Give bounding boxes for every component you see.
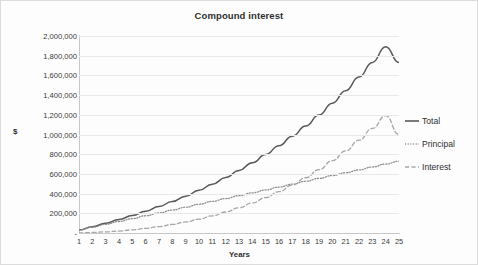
legend-swatch-icon (405, 139, 419, 149)
y-tick-label: 800,000 (3, 150, 77, 159)
chart-legend: TotalPrincipalInterest (405, 109, 478, 178)
x-tick-label: 10 (195, 237, 203, 246)
legend-swatch-icon (405, 116, 419, 126)
x-axis-tick-labels: 1234567891011121314151617181920212223242… (79, 237, 400, 251)
legend-item[interactable]: Principal (405, 132, 478, 155)
x-tick-label: 9 (184, 237, 188, 246)
gridline (79, 174, 399, 175)
gridline (79, 194, 399, 195)
series-line (79, 47, 399, 230)
x-tick-label: 21 (342, 237, 350, 246)
legend-item[interactable]: Interest (405, 155, 478, 178)
gridline (79, 213, 399, 214)
chart-container: Compound interest $ 2,000,0001,800,0001,… (0, 0, 478, 265)
y-axis-tick-labels: 2,000,0001,800,0001,600,0001,400,0001,20… (1, 1, 77, 265)
y-tick-label: 600,000 (3, 169, 77, 178)
x-tick-label: 20 (328, 237, 336, 246)
x-tick-label: 19 (315, 237, 323, 246)
x-tick-label: 4 (117, 237, 121, 246)
x-tick-label: 16 (275, 237, 283, 246)
x-tick-label: 3 (104, 237, 108, 246)
gridline (79, 115, 399, 116)
x-tick-label: 22 (355, 237, 363, 246)
legend-label: Total (422, 116, 440, 126)
y-tick-label: 2,000,000 (3, 32, 77, 41)
gridline (79, 56, 399, 57)
x-axis-line (79, 233, 400, 234)
x-tick-label: 24 (382, 237, 390, 246)
gridline (79, 95, 399, 96)
y-tick-label: - (3, 229, 77, 238)
legend-label: Interest (422, 162, 451, 172)
y-tick-label: 1,800,000 (3, 51, 77, 60)
x-tick-label: 18 (302, 237, 310, 246)
gridline (79, 135, 399, 136)
y-tick-label: 1,600,000 (3, 71, 77, 80)
x-tick-label: 14 (248, 237, 256, 246)
y-tick-label: 1,400,000 (3, 91, 77, 100)
x-tick-label: 11 (208, 237, 216, 246)
legend-label: Principal (422, 139, 455, 149)
x-tick-label: 25 (395, 237, 403, 246)
legend-swatch-icon (405, 162, 419, 172)
x-tick-label: 12 (222, 237, 230, 246)
x-tick-label: 1 (77, 237, 81, 246)
x-tick-label: 5 (130, 237, 134, 246)
y-tick-label: 1,000,000 (3, 130, 77, 139)
series-line (79, 161, 399, 230)
plot-area (79, 36, 399, 233)
gridline (79, 36, 399, 37)
x-tick-label: 13 (235, 237, 243, 246)
x-tick-label: 17 (288, 237, 296, 246)
legend-item[interactable]: Total (405, 109, 478, 132)
x-tick-label: 2 (90, 237, 94, 246)
x-tick-label: 6 (144, 237, 148, 246)
y-tick-label: 400,000 (3, 189, 77, 198)
gridline (79, 75, 399, 76)
x-tick-label: 8 (170, 237, 174, 246)
y-tick-label: 1,200,000 (3, 110, 77, 119)
x-tick-label: 7 (157, 237, 161, 246)
x-tick-label: 15 (262, 237, 270, 246)
y-tick-label: 200,000 (3, 209, 77, 218)
x-axis-title: Years (79, 250, 400, 259)
x-tick-label: 23 (368, 237, 376, 246)
gridline (79, 154, 399, 155)
